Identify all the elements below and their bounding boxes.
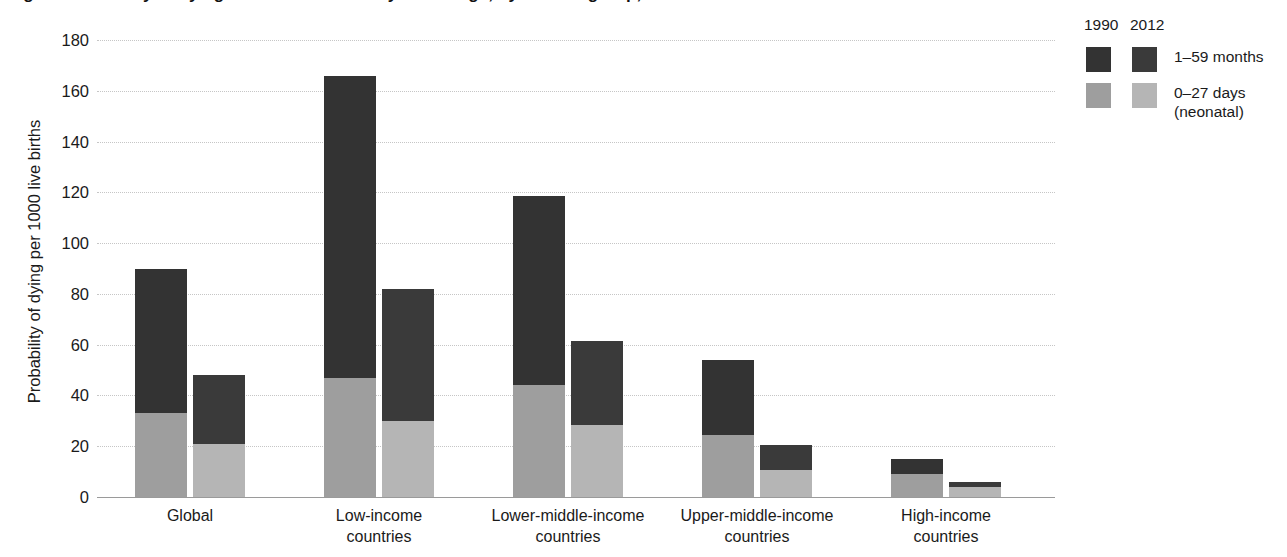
legend-swatch-2012-0 (1132, 47, 1157, 72)
y-tick-label-100: 100 (1, 234, 89, 253)
bar-segment-neonatal-lower-middle-income-1990[interactable] (513, 385, 565, 497)
bar-segment-1-59-months-global-1990[interactable] (135, 269, 187, 414)
bar-lower-middle-income-2012[interactable] (571, 341, 623, 497)
gridline-180 (97, 40, 1055, 41)
bar-segment-neonatal-high-income-1990[interactable] (891, 474, 943, 497)
bar-global-1990[interactable] (135, 269, 187, 498)
legend-row-1[interactable]: 0–27 days(neonatal) (1084, 80, 1284, 116)
legend-label-main: 0–27 days (1174, 84, 1246, 101)
bar-global-2012[interactable] (193, 375, 245, 497)
chart-title: Fig. 3: Probability of dying in children… (8, 0, 1048, 4)
bar-segment-neonatal-upper-middle-income-2012[interactable] (760, 470, 812, 497)
bar-upper-middle-income-1990[interactable] (702, 360, 754, 497)
x-axis-label-high-income: High-incomecountries (831, 505, 1061, 547)
legend-swatch-1990-0 (1086, 47, 1111, 72)
bar-segment-neonatal-low-income-2012[interactable] (382, 421, 434, 497)
bar-upper-middle-income-2012[interactable] (760, 445, 812, 497)
bar-low-income-2012[interactable] (382, 289, 434, 497)
bar-segment-1-59-months-low-income-1990[interactable] (324, 76, 376, 378)
legend-row-0[interactable]: 1–59 months (1084, 44, 1284, 80)
legend-label-main: 1–59 months (1174, 48, 1264, 65)
bar-segment-1-59-months-global-2012[interactable] (193, 375, 245, 444)
bar-segment-neonatal-lower-middle-income-2012[interactable] (571, 425, 623, 497)
bar-segment-1-59-months-low-income-2012[interactable] (382, 289, 434, 421)
y-tick-label-160: 160 (1, 81, 89, 100)
bar-segment-neonatal-upper-middle-income-1990[interactable] (702, 435, 754, 497)
bar-segment-1-59-months-upper-middle-income-2012[interactable] (760, 445, 812, 470)
y-tick-label-120: 120 (1, 183, 89, 202)
gridline-0 (97, 497, 1055, 498)
x-axis-label-line1: Low-income (336, 507, 422, 524)
chart-figure: Fig. 3: Probability of dying in children… (0, 0, 1287, 557)
legend-label-sub: (neonatal) (1174, 102, 1246, 121)
legend-swatch-2012-1 (1132, 83, 1157, 108)
bar-segment-neonatal-global-2012[interactable] (193, 444, 245, 497)
bar-segment-neonatal-global-1990[interactable] (135, 413, 187, 497)
x-axis-label-line2: countries (831, 526, 1061, 547)
bar-segment-1-59-months-high-income-1990[interactable] (891, 459, 943, 474)
bar-low-income-1990[interactable] (324, 76, 376, 497)
gridline-120 (97, 192, 1055, 193)
bar-segment-1-59-months-lower-middle-income-1990[interactable] (513, 196, 565, 385)
y-tick-label-60: 60 (1, 335, 89, 354)
y-tick-label-180: 180 (1, 31, 89, 50)
legend-label-1: 0–27 days(neonatal) (1174, 83, 1246, 121)
x-axis-label-line1: Lower-middle-income (492, 507, 645, 524)
bar-segment-1-59-months-upper-middle-income-1990[interactable] (702, 360, 754, 435)
bar-segment-neonatal-low-income-1990[interactable] (324, 378, 376, 497)
gridline-80 (97, 294, 1055, 295)
gridline-140 (97, 142, 1055, 143)
bar-high-income-1990[interactable] (891, 459, 943, 497)
bar-segment-1-59-months-lower-middle-income-2012[interactable] (571, 341, 623, 425)
legend-label-0: 1–59 months (1174, 47, 1264, 66)
legend-year-2012: 2012 (1130, 16, 1164, 34)
x-axis-label-line1: Upper-middle-income (681, 507, 834, 524)
bar-lower-middle-income-1990[interactable] (513, 196, 565, 497)
legend-year-1990: 1990 (1084, 16, 1118, 34)
bar-segment-1-59-months-high-income-2012[interactable] (949, 482, 1001, 487)
bar-high-income-2012[interactable] (949, 482, 1001, 497)
legend-swatch-1990-1 (1086, 83, 1111, 108)
y-tick-label-80: 80 (1, 284, 89, 303)
gridline-100 (97, 243, 1055, 244)
chart-legend: 1990 2012 1–59 months0–27 days(neonatal) (1084, 16, 1284, 116)
y-axis-title: Probability of dying per 1000 live birth… (25, 42, 44, 482)
gridline-160 (97, 91, 1055, 92)
y-tick-label-0: 0 (1, 488, 89, 507)
legend-year-headers: 1990 2012 (1084, 16, 1284, 38)
bar-segment-neonatal-high-income-2012[interactable] (949, 487, 1001, 497)
y-tick-label-20: 20 (1, 437, 89, 456)
y-tick-label-140: 140 (1, 132, 89, 151)
y-tick-label-40: 40 (1, 386, 89, 405)
plot-area (97, 40, 1055, 497)
x-axis-label-line1: Global (167, 507, 213, 524)
x-axis-label-line1: High-income (901, 507, 991, 524)
legend-rows: 1–59 months0–27 days(neonatal) (1084, 44, 1284, 116)
